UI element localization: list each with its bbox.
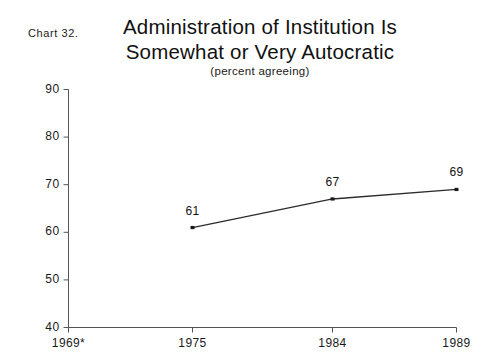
x-axis-tick-label: 1989 (442, 336, 470, 350)
data-point-marker (191, 226, 195, 229)
data-line (193, 189, 457, 227)
y-axis-tick-label: 70 (26, 177, 60, 191)
y-axis-tick-label: 80 (26, 129, 60, 143)
data-point-value-label: 67 (325, 175, 339, 189)
axes (69, 90, 457, 328)
plot-area (0, 0, 497, 358)
x-axis-ticks (69, 328, 457, 333)
y-axis-ticks (64, 90, 69, 328)
x-axis-tick-label: 1984 (318, 336, 346, 350)
data-point-value-label: 69 (449, 165, 463, 179)
y-axis-tick-label: 50 (26, 272, 60, 286)
chart-figure: Chart 32. Administration of Institution … (0, 0, 497, 358)
data-point-marker (455, 188, 459, 191)
x-axis-tick-label: 1969* (52, 336, 85, 350)
data-point-marker (331, 197, 335, 200)
data-point-markers (191, 188, 459, 229)
y-axis-tick-label: 90 (26, 82, 60, 96)
data-point-value-label: 61 (185, 204, 199, 218)
y-axis-tick-label: 40 (26, 320, 60, 334)
y-axis-tick-label: 60 (26, 224, 60, 238)
x-axis-tick-label: 1975 (178, 336, 206, 350)
